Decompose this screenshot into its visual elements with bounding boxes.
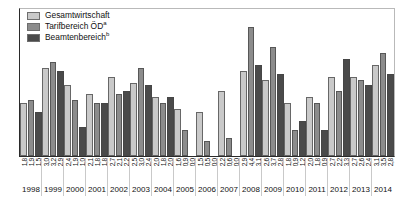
value-label: 3,0 xyxy=(42,158,49,182)
bar xyxy=(123,91,130,156)
bar xyxy=(160,103,167,156)
x-axis-year-label: 2009 xyxy=(262,184,284,198)
bar-chart: 0,00,51,01,52,02,53,03,54,04,55,0 Gesamt… xyxy=(0,0,399,201)
legend-item-1[interactable]: Gesamtwirtschaft xyxy=(27,11,110,20)
bar xyxy=(387,74,394,156)
value-label: 2,7 xyxy=(108,158,115,182)
bar xyxy=(79,127,86,156)
value-label-group: 2,63,72,8 xyxy=(262,158,284,182)
value-label: 2,0 xyxy=(152,158,159,182)
x-axis-year-label: 2012 xyxy=(328,184,350,198)
bar xyxy=(277,74,284,156)
bar xyxy=(350,77,357,156)
bar xyxy=(57,71,64,156)
bar xyxy=(226,138,233,156)
bar xyxy=(248,27,255,156)
bar xyxy=(108,77,115,156)
value-label: 2,7 xyxy=(350,158,357,182)
bar xyxy=(270,47,277,156)
legend-item-3[interactable]: Beamtenbereichb xyxy=(27,33,110,42)
value-label: 2,2 xyxy=(218,158,225,182)
bar xyxy=(86,94,93,156)
legend-swatch-icon xyxy=(27,12,40,20)
value-label-group: 2,01,82,0 xyxy=(152,158,174,182)
bar xyxy=(299,121,306,156)
bar xyxy=(116,94,123,156)
bar-group xyxy=(218,9,240,156)
bar xyxy=(152,97,159,156)
value-label: 2,5 xyxy=(130,158,137,182)
legend-swatch-icon xyxy=(27,23,40,31)
value-label: 1,6 xyxy=(174,158,181,182)
bar-group xyxy=(108,9,130,156)
value-label: 1,8 xyxy=(284,158,291,182)
value-label: 2,1 xyxy=(86,158,93,182)
value-label-group: 2,20,60,0 xyxy=(218,158,240,182)
bar xyxy=(20,103,27,156)
bar xyxy=(174,109,181,156)
bar-group xyxy=(372,9,394,156)
bar-group xyxy=(306,9,328,156)
value-label-group: 3,13,52,8 xyxy=(372,158,394,182)
bar xyxy=(101,103,108,156)
value-label-group: 2,41,91,0 xyxy=(64,158,86,182)
value-label-group: 2,53,02,4 xyxy=(130,158,152,182)
x-axis-year-labels: 1998199920002001200220032004200520062007… xyxy=(20,184,394,198)
bar xyxy=(35,112,42,156)
value-label-group: 1,50,50,0 xyxy=(196,158,218,182)
bar xyxy=(358,80,365,156)
x-axis-year-label: 2005 xyxy=(174,184,196,198)
legend-swatch-icon xyxy=(27,34,40,42)
value-label: 2,9 xyxy=(240,158,247,182)
value-label-group: 3,03,22,9 xyxy=(42,158,64,182)
bar xyxy=(50,62,57,156)
bar xyxy=(292,130,299,156)
legend-footnote-marker: b xyxy=(106,31,109,37)
bar xyxy=(372,65,379,156)
bar xyxy=(130,83,137,157)
value-label: 2,7 xyxy=(328,158,335,182)
value-labels-container: 1,81,91,53,03,22,92,41,91,02,11,81,82,72… xyxy=(20,158,394,182)
bar xyxy=(72,100,79,156)
value-label: 2,4 xyxy=(64,158,71,182)
x-axis-year-label: 2003 xyxy=(130,184,152,198)
value-label-group: 1,80,91,2 xyxy=(284,158,306,182)
bar-group xyxy=(328,9,350,156)
bar xyxy=(321,130,328,156)
bar-group xyxy=(130,9,152,156)
x-axis-year-label: 2004 xyxy=(152,184,174,198)
bar xyxy=(255,65,262,156)
x-axis-year-label: 2000 xyxy=(64,184,86,198)
bar xyxy=(328,77,335,156)
bar xyxy=(306,97,313,156)
bar xyxy=(218,91,225,156)
bar-group xyxy=(196,9,218,156)
x-axis-year-label: 2014 xyxy=(372,184,394,198)
bar xyxy=(196,112,203,156)
legend-footnote-marker: a xyxy=(103,20,106,26)
bar xyxy=(204,141,211,156)
bar xyxy=(343,59,350,156)
bar xyxy=(42,68,49,156)
legend-item-label: Tarifbereich ÖDa xyxy=(45,22,107,31)
y-axis: 0,00,51,01,52,02,53,03,54,04,55,0 xyxy=(0,0,19,157)
legend-item-2[interactable]: Tarifbereich ÖDa xyxy=(27,22,110,31)
value-label-group: 2,01,80,9 xyxy=(306,158,328,182)
bar-group xyxy=(152,9,174,156)
value-label-group: 2,94,43,1 xyxy=(240,158,262,182)
bar xyxy=(262,80,269,156)
bar-group xyxy=(174,9,196,156)
x-axis-year-label: 2013 xyxy=(350,184,372,198)
x-axis-year-label: 2007 xyxy=(218,184,240,198)
value-label: 3,1 xyxy=(372,158,379,182)
bar-group xyxy=(350,9,372,156)
chart-legend: GesamtwirtschaftTarifbereich ÖDaBeamtenb… xyxy=(27,11,110,42)
bar xyxy=(138,68,145,156)
bar xyxy=(314,103,321,156)
bar xyxy=(28,100,35,156)
x-axis-year-label: 2002 xyxy=(108,184,130,198)
bar xyxy=(336,91,343,156)
value-label-group: 2,72,23,3 xyxy=(328,158,350,182)
x-axis-year-label: 2006 xyxy=(196,184,218,198)
bar-group xyxy=(284,9,306,156)
